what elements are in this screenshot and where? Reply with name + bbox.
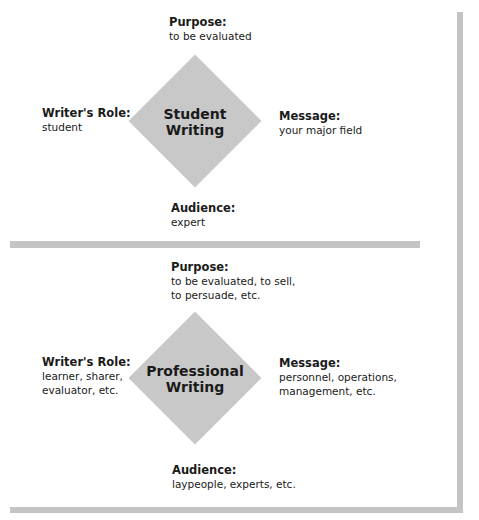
purpose-label: Purpose: xyxy=(171,260,295,274)
audience-value: expert xyxy=(171,215,235,229)
message-value: your major field xyxy=(279,123,362,137)
student-message: Message: your major field xyxy=(279,109,362,137)
audience-value: laypeople, experts, etc. xyxy=(172,477,296,491)
writers-role-value-line-2: evaluator, etc. xyxy=(42,383,131,397)
writers-role-value-line-1: learner, sharer, xyxy=(42,369,131,383)
writers-role-label: Writer's Role: xyxy=(42,355,131,369)
purpose-value-line-2: to persuade, etc. xyxy=(171,288,295,302)
section-divider-bar xyxy=(10,241,420,248)
professional-writers-role: Writer's Role: learner, sharer, evaluato… xyxy=(42,355,131,397)
audience-label: Audience: xyxy=(171,201,235,215)
professional-writing-title: Professional Writing xyxy=(130,363,260,395)
message-label: Message: xyxy=(279,356,397,370)
title-line-2: Writing xyxy=(130,379,260,395)
bottom-border-bar xyxy=(10,507,463,513)
student-writers-role: Writer's Role: student xyxy=(42,106,131,134)
purpose-value: to be evaluated xyxy=(169,29,252,43)
student-purpose: Purpose: to be evaluated xyxy=(169,15,252,43)
writers-role-value: student xyxy=(42,120,131,134)
purpose-label: Purpose: xyxy=(169,15,252,29)
title-line-1: Professional xyxy=(130,363,260,379)
right-border-bar xyxy=(457,12,463,513)
message-value-line-1: personnel, operations, xyxy=(279,370,397,384)
title-line-2: Writing xyxy=(130,122,260,138)
title-line-1: Student xyxy=(130,106,260,122)
message-label: Message: xyxy=(279,109,362,123)
message-value-line-2: management, etc. xyxy=(279,384,397,398)
professional-audience: Audience: laypeople, experts, etc. xyxy=(172,463,296,491)
writers-role-label: Writer's Role: xyxy=(42,106,131,120)
professional-purpose: Purpose: to be evaluated, to sell, to pe… xyxy=(171,260,295,302)
audience-label: Audience: xyxy=(172,463,296,477)
purpose-value-line-1: to be evaluated, to sell, xyxy=(171,274,295,288)
student-audience: Audience: expert xyxy=(171,201,235,229)
student-writing-title: Student Writing xyxy=(130,106,260,138)
professional-message: Message: personnel, operations, manageme… xyxy=(279,356,397,398)
